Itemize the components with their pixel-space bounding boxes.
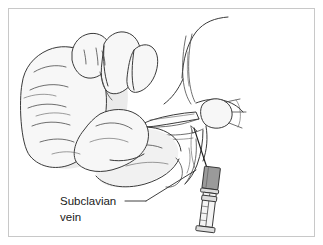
syringe-hub bbox=[202, 166, 221, 190]
subclavian-label-line2: vein bbox=[60, 211, 81, 223]
humeral-head-joint bbox=[201, 99, 233, 128]
subclavian-label-line1: Subclavian bbox=[60, 195, 116, 207]
subclavian-vein-illustration: Subclavian vein bbox=[0, 0, 323, 245]
illustration-root: Subclavian vein bbox=[0, 0, 323, 245]
